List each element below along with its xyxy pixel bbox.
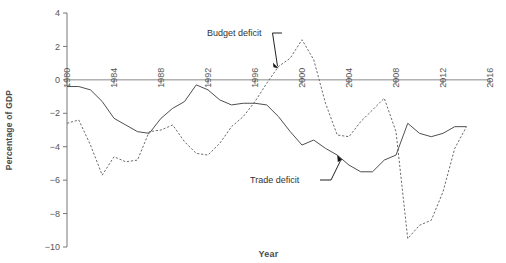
annotation-label-budget-deficit: Budget deficit <box>207 28 262 38</box>
y-tick-label: −10 <box>45 242 60 252</box>
y-tick-label: −2 <box>50 108 60 118</box>
line-chart: 420−2−4−6−8−1019801984198819921996200020… <box>0 0 506 263</box>
x-tick-label: 2004 <box>345 68 355 88</box>
series-line-budget-deficit <box>67 40 467 239</box>
x-tick-label: 2000 <box>298 68 308 88</box>
annotation-leader-budget-deficit <box>273 33 283 66</box>
x-tick-label: 1996 <box>251 68 261 88</box>
x-tick-label: 1984 <box>110 68 120 88</box>
x-axis-title: Year <box>259 249 279 259</box>
y-tick-label: −6 <box>50 175 60 185</box>
x-tick-label: 1980 <box>63 68 73 88</box>
y-tick-label: 2 <box>55 42 60 52</box>
series-line-trade-deficit <box>67 85 467 172</box>
x-tick-label: 1988 <box>157 68 167 88</box>
x-tick-label: 2012 <box>439 68 449 88</box>
annotation-leader-trade-deficit <box>320 161 340 180</box>
x-tick-label: 2008 <box>392 68 402 88</box>
y-tick-label: 4 <box>55 8 60 18</box>
x-tick-label: 2016 <box>486 68 496 88</box>
chart-container: 420−2−4−6−8−1019801984198819921996200020… <box>0 0 506 263</box>
annotation-label-trade-deficit: Trade deficit <box>250 175 300 185</box>
x-tick-label: 1992 <box>204 68 214 88</box>
y-axis-title: Percentage of GDP <box>4 90 14 171</box>
y-tick-label: 0 <box>55 75 60 85</box>
y-tick-label: −4 <box>50 142 60 152</box>
y-tick-label: −8 <box>50 209 60 219</box>
